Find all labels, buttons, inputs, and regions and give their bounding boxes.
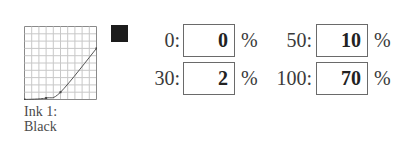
field-label-0: 0:	[148, 29, 180, 52]
duotone-curve-graph[interactable]	[24, 26, 97, 100]
percent-input-50[interactable]: 10	[316, 24, 368, 57]
field-label-100: 100:	[268, 67, 312, 90]
percent-unit-30: %	[241, 67, 258, 90]
percent-input-100[interactable]: 70	[316, 62, 368, 95]
ink-name-label: Black	[24, 119, 57, 134]
percent-unit-0: %	[241, 29, 258, 52]
percent-input-0[interactable]: 0	[183, 24, 235, 57]
percent-unit-50: %	[374, 29, 391, 52]
percent-input-30[interactable]: 2	[183, 62, 235, 95]
field-label-30: 30:	[148, 67, 180, 90]
field-row-50: 50: 10 %	[268, 24, 391, 57]
percent-unit-100: %	[374, 67, 391, 90]
ink-number-label: Ink 1:	[24, 104, 57, 119]
field-row-30: 30: 2 %	[148, 62, 258, 95]
field-row-100: 100: 70 %	[268, 62, 391, 95]
ink-color-swatch[interactable]	[111, 25, 128, 42]
transfer-curve-icon	[24, 26, 97, 100]
field-row-0: 0: 0 %	[148, 24, 258, 57]
ink-label: Ink 1: Black	[24, 104, 57, 134]
field-label-50: 50:	[268, 29, 312, 52]
